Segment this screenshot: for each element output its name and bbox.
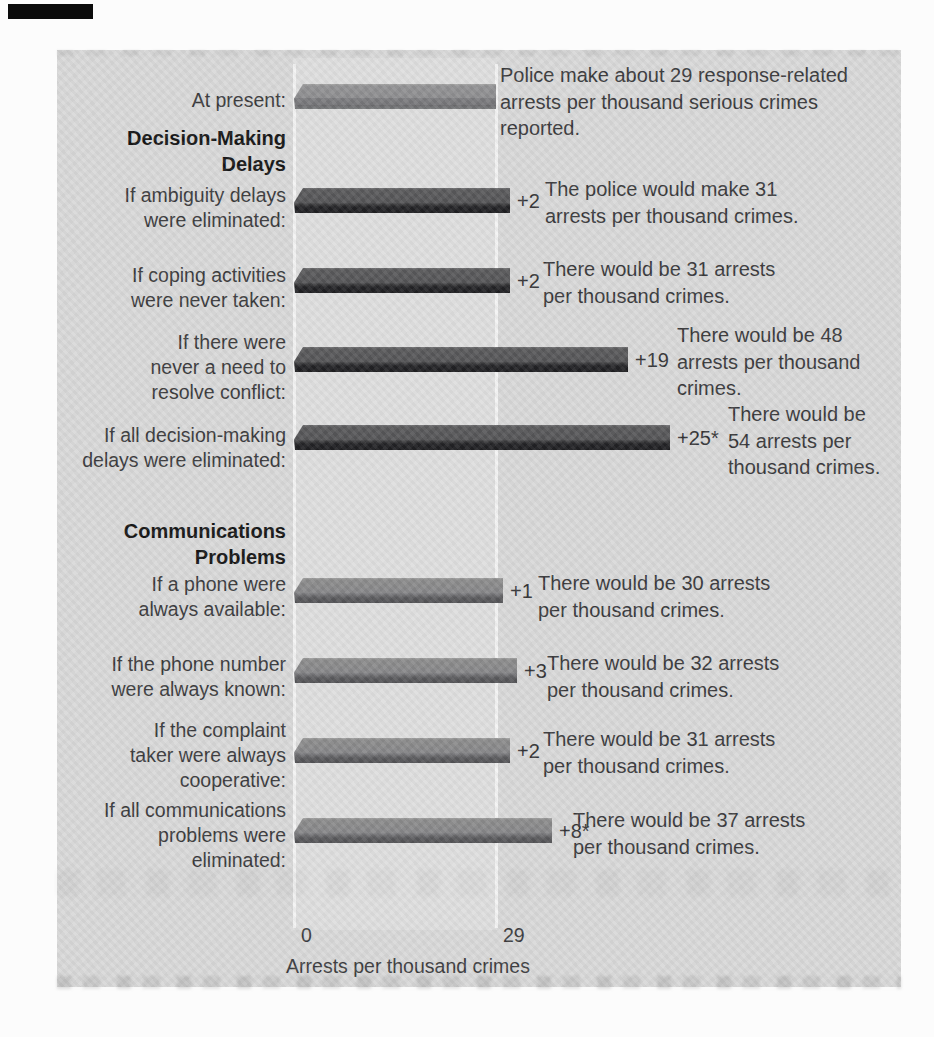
- bar-row-all-communications: +8*: [294, 818, 590, 843]
- delta-label: +2: [517, 190, 540, 213]
- annotation-all-communications: There would be 37 arrests per thousand c…: [573, 807, 805, 860]
- row-label-phone-number: If the phone number were always known:: [57, 652, 286, 702]
- scan-artifact-bottom-edge-ghost-text: [57, 976, 901, 989]
- delta-label: +25*: [677, 427, 719, 450]
- bar-row-at-present: [294, 84, 503, 109]
- row-label-coping: If coping activities were never taken:: [57, 263, 286, 313]
- row-label-conflict: If there were never a need to resolve co…: [57, 330, 286, 405]
- delta-label: +2: [517, 740, 540, 763]
- bar-phone-available: [294, 578, 503, 603]
- delta-label: +1: [510, 580, 533, 603]
- x-axis-tick-0: 0: [301, 924, 312, 947]
- bar-all-communications: [294, 818, 552, 843]
- figure-panel: At present: Decision-Making Delays If am…: [57, 50, 901, 987]
- bar-coping: [294, 268, 510, 293]
- bar-row-coping: +2: [294, 268, 540, 293]
- annotation-all-decision: There would be 54 arrests per thousand c…: [728, 401, 880, 481]
- x-axis-title: Arrests per thousand crimes: [283, 955, 533, 978]
- annotation-ambiguity: The police would make 31 arrests per tho…: [545, 176, 798, 229]
- bar-row-phone-available: +1: [294, 578, 533, 603]
- annotation-phone-available: There would be 30 arrests per thousand c…: [538, 570, 770, 623]
- delta-label: +2: [517, 270, 540, 293]
- bar-phone-number: [294, 658, 517, 683]
- scanned-page: { "chart_data": { "type": "bar", "orient…: [0, 0, 934, 1037]
- section-header-communications: Communications Problems: [57, 518, 286, 570]
- bar-row-all-decision: +25*: [294, 425, 719, 450]
- bar-row-complaint-taker: +2: [294, 738, 540, 763]
- bar-conflict: [294, 347, 628, 372]
- row-label-phone-available: If a phone were always available:: [57, 572, 286, 622]
- annotation-coping: There would be 31 arrests per thousand c…: [543, 256, 775, 309]
- delta-label: +19: [635, 349, 669, 372]
- bar-complaint-taker: [294, 738, 510, 763]
- section-header-decision-making: Decision-Making Delays: [57, 125, 286, 177]
- bar-all-decision: [294, 425, 670, 450]
- row-label-at-present: At present:: [57, 88, 286, 113]
- row-label-all-communications: If all communications problems were elim…: [57, 798, 286, 873]
- bar-row-phone-number: +3: [294, 658, 547, 683]
- annotation-conflict: There would be 48 arrests per thousand c…: [677, 322, 860, 402]
- bar-at-present: [294, 84, 496, 109]
- delta-label: +3: [524, 660, 547, 683]
- scan-artifact-top-edge: [57, 50, 901, 56]
- bar-row-conflict: +19: [294, 347, 669, 372]
- scan-artifact-black-mark: [8, 4, 93, 19]
- annotation-complaint-taker: There would be 31 arrests per thousand c…: [543, 726, 775, 779]
- bar-row-ambiguity: +2: [294, 188, 540, 213]
- scan-artifact-ghost-text-band: [57, 870, 901, 896]
- annotation-phone-number: There would be 32 arrests per thousand c…: [547, 650, 779, 703]
- bar-ambiguity: [294, 188, 510, 213]
- annotation-at-present: Police make about 29 response-related ar…: [500, 62, 848, 142]
- row-label-ambiguity: If ambiguity delays were eliminated:: [57, 183, 286, 233]
- row-label-complaint-taker: If the complaint taker were always coope…: [57, 718, 286, 793]
- x-axis-tick-29: 29: [503, 924, 525, 947]
- row-label-all-decision: If all decision-making delays were elimi…: [57, 423, 286, 473]
